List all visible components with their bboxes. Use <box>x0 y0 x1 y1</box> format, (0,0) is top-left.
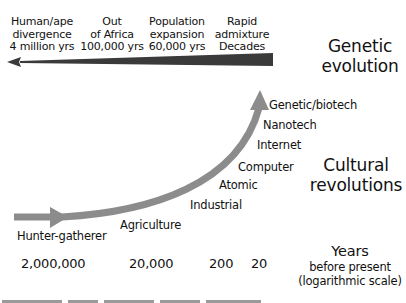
event-title: Out <box>80 16 144 29</box>
genetic-event-population-expansion: Population expansion 60,000 yrs <box>146 16 208 54</box>
time-tick-200: 200 <box>209 257 233 270</box>
genetic-event-human-ape: Human/ape divergence 4 million yrs <box>6 16 78 54</box>
genetic-event-out-of-africa: Out of Africa 100,000 yrs <box>80 16 144 54</box>
event-title: Human/ape <box>6 16 78 29</box>
cultural-midpoint-arrowhead-icon <box>50 207 68 228</box>
time-tick-20: 20 <box>251 257 267 270</box>
label-line: revolutions <box>306 175 406 195</box>
event-title: Rapid <box>212 16 272 29</box>
axis-title-line: before present <box>294 260 406 274</box>
cultural-revolutions-label: Cultural revolutions <box>306 155 406 195</box>
cultural-step-industrial: Industrial <box>190 200 242 212</box>
cultural-step-computer: Computer <box>238 162 294 174</box>
cropped-caption <box>0 298 300 303</box>
genetic-arrowhead-icon <box>7 57 21 67</box>
time-axis-title: Years before present (logarithmic scale) <box>294 243 406 288</box>
cultural-tip-arrowhead-icon <box>250 90 269 110</box>
genetic-event-rapid-admixture: Rapid admixture Decades <box>212 16 272 54</box>
time-tick-20000: 20,000 <box>129 257 173 270</box>
label-line: evolution <box>318 56 402 76</box>
cultural-step-hunter-gatherer: Hunter-gatherer <box>17 231 106 243</box>
cultural-step-atomic: Atomic <box>219 180 258 192</box>
event-time: 4 million yrs <box>6 41 78 54</box>
event-time: 60,000 yrs <box>146 41 208 54</box>
cultural-step-agriculture: Agriculture <box>120 220 181 232</box>
genetic-evolution-label: Genetic evolution <box>318 36 402 76</box>
axis-title-line: (logarithmic scale) <box>294 274 406 288</box>
axis-title-line: Years <box>294 243 406 260</box>
event-title: Population <box>146 16 208 29</box>
event-time: 100,000 yrs <box>80 41 144 54</box>
label-line: Cultural <box>306 155 406 175</box>
event-time: Decades <box>212 41 272 54</box>
diagram: Human/ape divergence 4 million yrs Out o… <box>0 0 406 303</box>
genetic-evolution-arrow <box>20 53 273 66</box>
cultural-step-nanotech: Nanotech <box>263 120 317 132</box>
label-line: Genetic <box>318 36 402 56</box>
time-tick-2000000: 2,000,000 <box>21 257 85 270</box>
cultural-step-genetic-biotech: Genetic/biotech <box>269 100 357 112</box>
cultural-step-internet: Internet <box>257 140 301 152</box>
